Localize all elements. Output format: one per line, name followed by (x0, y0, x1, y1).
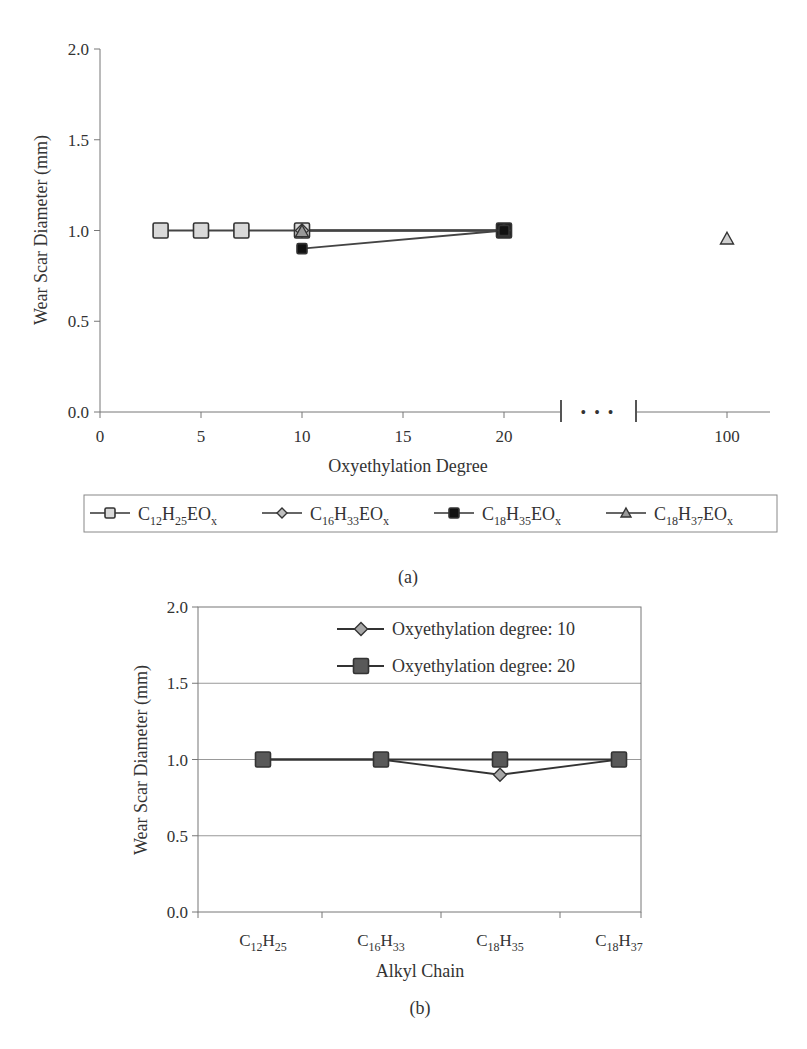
legend-b: Oxyethylation degree: 10Oxyethylation de… (337, 619, 575, 676)
y-axis-label-b: Wear Scar Diameter (mm) (131, 665, 152, 855)
y-axis-label-a: Wear Scar Diameter (mm) (31, 135, 52, 325)
x-axis-label-a: Oxyethylation Degree (328, 456, 487, 476)
caption-b: (b) (410, 998, 431, 1019)
x-tick-label: 0 (96, 427, 105, 446)
data-point (499, 226, 509, 236)
data-point (374, 752, 389, 767)
y-tick-label: 1.0 (167, 751, 188, 770)
y-ticks-a: 0.00.51.01.52.0 (68, 40, 100, 422)
x-tick-label: 5 (197, 427, 206, 446)
x-ticks-b: C12​H25​C16​H33​C18​H35​C18​H37​ (198, 912, 643, 954)
panel-b: 0.00.51.01.52.0 C12​H25​C16​H33​C18​H35​… (131, 598, 643, 1019)
y-tick-label: 1.5 (167, 674, 188, 693)
x-tick-label: 100 (714, 427, 740, 446)
data-point (256, 752, 271, 767)
data-point (153, 223, 168, 238)
y-tick-label: 2.0 (167, 598, 188, 617)
legend-marker (449, 508, 459, 518)
legend-label: Oxyethylation degree: 10 (392, 619, 575, 639)
x-ticks-a: 05101520100 (96, 412, 740, 446)
x-axis-label-b: Alkyl Chain (376, 961, 465, 981)
y-tick-label: 1.0 (68, 222, 89, 241)
series-line (302, 231, 504, 249)
x-category-label: C18​H37​ (595, 931, 643, 954)
y-tick-label: 0.5 (68, 312, 89, 331)
y-ticks-b: 0.00.51.01.52.0 (167, 598, 198, 922)
series-b (256, 752, 627, 781)
y-tick-label: 0.0 (167, 903, 188, 922)
data-point (612, 752, 627, 767)
data-point (234, 223, 249, 238)
y-tick-label: 0.0 (68, 403, 89, 422)
x-category-label: C12​H25​ (239, 931, 287, 954)
legend-marker (105, 508, 115, 518)
data-point (493, 752, 508, 767)
data-point (721, 232, 734, 244)
data-point (297, 244, 307, 254)
panel-a: 0.00.51.01.52.0 • • • 05101520100 Wear S… (31, 40, 777, 588)
x-category-label: C18​H35​ (476, 931, 524, 954)
y-tick-label: 0.5 (167, 827, 188, 846)
legend-label: Oxyethylation degree: 20 (392, 656, 575, 676)
series-a (153, 223, 733, 254)
figure: 0.00.51.01.52.0 • • • 05101520100 Wear S… (0, 0, 807, 1049)
x-tick-label: 20 (496, 427, 513, 446)
x-tick-label: 15 (395, 427, 412, 446)
x-category-label: C16​H33​ (357, 931, 405, 954)
y-tick-label: 2.0 (68, 40, 89, 59)
y-tick-label: 1.5 (68, 131, 89, 150)
legend-marker (354, 659, 369, 674)
legend-marker (355, 623, 368, 636)
data-point (194, 223, 209, 238)
data-point (494, 768, 507, 781)
x-tick-label: 10 (294, 427, 311, 446)
caption-a: (a) (398, 567, 418, 588)
axis-break-dots: • • • (581, 404, 616, 421)
series-line (263, 760, 619, 775)
